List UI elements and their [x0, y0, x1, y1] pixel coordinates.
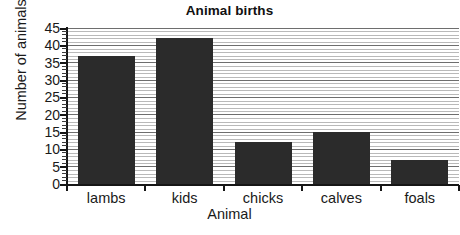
y-axis-tick-minor [62, 135, 67, 136]
y-axis-tick-major [60, 28, 67, 30]
y-axis-tick-minor [62, 159, 67, 160]
y-axis-tick-label: 10 [30, 142, 60, 156]
x-axis-tick [301, 185, 303, 191]
y-axis-tick-minor [62, 121, 67, 122]
y-axis-tick-minor [62, 59, 67, 60]
y-axis-tick-minor [62, 34, 67, 35]
y-axis-tick-minor [62, 93, 67, 94]
y-axis-tick-minor [62, 152, 67, 153]
y-axis-tick-major [60, 166, 67, 168]
x-axis-line [66, 184, 459, 186]
x-axis-tick-label: calves [302, 190, 380, 206]
y-axis-tick-minor [62, 107, 67, 108]
gridline-minor [67, 49, 459, 50]
gridline-minor [67, 31, 459, 32]
y-axis-tick-minor [62, 177, 67, 178]
y-axis-tick-minor [62, 73, 67, 74]
x-axis-tick [380, 185, 382, 191]
y-axis-tick-minor [62, 163, 67, 164]
y-axis-tick-minor [62, 111, 67, 112]
x-axis-tick [144, 185, 146, 191]
x-axis-tick-label: chicks [224, 190, 302, 206]
y-axis-tick-minor [62, 86, 67, 87]
y-axis-tick-minor [62, 38, 67, 39]
x-axis-tick-label: lambs [67, 190, 145, 206]
y-axis-tick-label: 45 [30, 21, 60, 35]
y-axis-tick-label: 35 [30, 56, 60, 70]
y-axis-tick-label: 0 [30, 177, 60, 191]
y-axis-tick-minor [62, 138, 67, 139]
y-axis-tick-minor [62, 66, 67, 67]
y-axis-tick-minor [62, 41, 67, 42]
y-axis-tick-minor [62, 156, 67, 157]
y-axis-tick-label: 30 [30, 73, 60, 87]
y-axis-tick-minor [62, 55, 67, 56]
gridline-minor [67, 52, 459, 53]
y-axis-tick-major [60, 62, 67, 64]
y-axis-tick-minor [62, 48, 67, 49]
y-axis-title: Number of animals [13, 0, 29, 135]
x-axis-tick [66, 185, 68, 191]
y-axis-tick-minor [62, 83, 67, 84]
plot-area [67, 28, 459, 184]
y-axis-tick-label: 15 [30, 125, 60, 139]
x-axis-title: Animal [0, 206, 459, 222]
y-axis-tick-minor [62, 173, 67, 174]
y-axis-tick-major [60, 114, 67, 116]
y-axis-tick-minor [62, 118, 67, 119]
y-axis-tick-minor [62, 69, 67, 70]
bar [313, 132, 370, 184]
x-axis-tick-label: kids [145, 190, 223, 206]
y-axis-tick-minor [62, 128, 67, 129]
gridline-minor [67, 35, 459, 36]
y-axis-tick-minor [62, 170, 67, 171]
y-axis-tick-minor [62, 142, 67, 143]
y-axis-tick-major [60, 149, 67, 151]
x-axis-tick-label: foals [381, 190, 459, 206]
y-axis-tick-minor [62, 31, 67, 32]
y-axis-tick-major [60, 132, 67, 134]
y-axis-tick-minor [62, 180, 67, 181]
gridline-major [67, 45, 459, 46]
y-axis-tick-minor [62, 90, 67, 91]
y-axis-tick-label: 5 [30, 160, 60, 174]
y-axis-tick-label: 25 [30, 90, 60, 104]
y-axis-tick-label: 20 [30, 108, 60, 122]
chart-title: Animal births [0, 3, 459, 18]
y-axis-tick-minor [62, 104, 67, 105]
y-axis-tick-minor [62, 76, 67, 77]
gridline-minor [67, 38, 459, 39]
y-axis-tick-minor [62, 145, 67, 146]
y-axis-tick-major [60, 45, 67, 47]
y-axis-tick-minor [62, 125, 67, 126]
y-axis-tick-major [60, 97, 67, 99]
bar [78, 56, 135, 184]
y-axis-tick-minor [62, 52, 67, 53]
y-axis-tick-label: 40 [30, 38, 60, 52]
y-axis-tick-minor [62, 100, 67, 101]
x-axis-tick [223, 185, 225, 191]
bar [156, 38, 213, 184]
bar [391, 160, 448, 184]
bar [235, 142, 292, 184]
gridline-major [67, 28, 459, 29]
y-axis-tick-major [60, 80, 67, 82]
gridline-minor [67, 42, 459, 43]
